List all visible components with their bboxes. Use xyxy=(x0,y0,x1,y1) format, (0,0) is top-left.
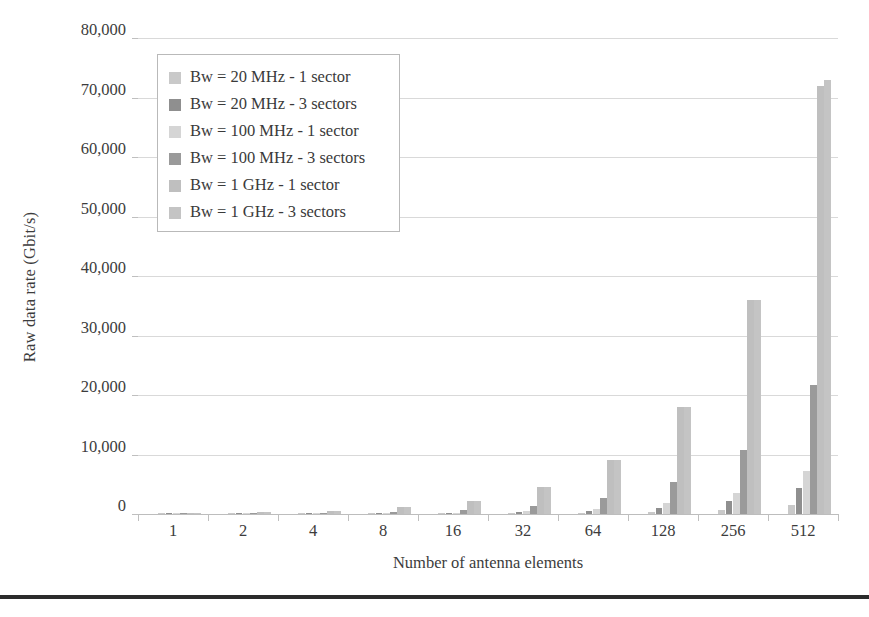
y-axis-tick-label: 80,000 xyxy=(48,20,126,40)
x-axis-tick-mark xyxy=(768,514,769,521)
bar xyxy=(313,513,320,514)
bar xyxy=(383,513,390,514)
bar xyxy=(718,510,725,514)
bar xyxy=(544,487,551,514)
bar xyxy=(578,513,585,514)
bar xyxy=(648,512,655,514)
bar-cluster xyxy=(628,38,698,514)
bar xyxy=(158,513,165,514)
bar xyxy=(243,513,250,514)
x-axis-tick-mark xyxy=(698,514,699,521)
x-axis-tick-mark xyxy=(628,514,629,521)
x-axis-tick-mark xyxy=(278,514,279,521)
bar xyxy=(740,450,747,514)
bar xyxy=(824,80,831,514)
bar xyxy=(803,471,810,514)
bar xyxy=(586,511,593,514)
bar xyxy=(467,501,474,514)
x-axis-tick-mark xyxy=(348,514,349,521)
bar xyxy=(677,407,684,514)
bar-cluster xyxy=(418,38,488,514)
legend-swatch-icon xyxy=(169,72,181,84)
y-axis-tick-label: 60,000 xyxy=(48,139,126,159)
legend-item-label: Bw = 100 MHz - 1 sector xyxy=(190,123,359,140)
bar xyxy=(747,300,754,514)
legend-item[interactable]: Bw = 1 GHz - 1 sector xyxy=(169,172,399,199)
bar xyxy=(530,506,537,514)
bar xyxy=(593,509,600,514)
x-axis-tick-mark xyxy=(488,514,489,521)
bar xyxy=(684,407,691,514)
bar xyxy=(180,513,187,514)
bar xyxy=(453,513,460,514)
legend-swatch-icon xyxy=(169,207,181,219)
x-axis-tick-label: 16 xyxy=(445,521,462,541)
bar-cluster xyxy=(488,38,558,514)
y-axis-title: Raw data rate (Gbit/s) xyxy=(20,107,40,467)
bar xyxy=(236,513,243,514)
bar xyxy=(306,513,313,514)
legend-item[interactable]: Bw = 100 MHz - 1 sector xyxy=(169,118,399,145)
y-axis-tick-label: 0 xyxy=(48,496,126,516)
y-axis-tick-label: 40,000 xyxy=(48,258,126,278)
bar xyxy=(334,511,341,514)
bar-cluster xyxy=(768,38,838,514)
bar xyxy=(446,513,453,514)
legend-swatch-icon xyxy=(169,126,181,138)
bar xyxy=(474,501,481,514)
x-axis-tick-mark xyxy=(838,514,839,521)
bar xyxy=(460,510,467,514)
legend-item[interactable]: Bw = 1 GHz - 3 sectors xyxy=(169,199,399,226)
x-axis-tick-label: 8 xyxy=(379,521,387,541)
bar xyxy=(817,86,824,514)
bar xyxy=(670,482,677,514)
bar xyxy=(796,488,803,514)
x-axis-tick-label: 64 xyxy=(585,521,602,541)
bar-cluster xyxy=(558,38,628,514)
bar xyxy=(194,513,201,514)
y-axis-tick-label: 20,000 xyxy=(48,377,126,397)
bar xyxy=(607,460,614,514)
bar xyxy=(537,487,544,514)
x-axis-tick-label: 32 xyxy=(515,521,532,541)
bar xyxy=(656,508,663,514)
legend-item-label: Bw = 1 GHz - 3 sectors xyxy=(190,204,346,221)
legend-item[interactable]: Bw = 100 MHz - 3 sectors xyxy=(169,145,399,172)
bar xyxy=(327,511,334,514)
bar xyxy=(264,512,271,514)
x-axis-tick-labels: 1248163264128256512 xyxy=(138,521,838,547)
bar xyxy=(788,505,795,514)
chart-figure: Raw data rate (Gbit/s) 010,00020,00030,0… xyxy=(0,0,869,617)
x-axis-tick-label: 4 xyxy=(309,521,317,541)
legend-swatch-icon xyxy=(169,99,181,111)
legend-item[interactable]: Bw = 20 MHz - 1 sector xyxy=(169,64,399,91)
bar xyxy=(376,513,383,514)
x-axis-tick-label: 128 xyxy=(651,521,676,541)
y-axis-tick-label: 30,000 xyxy=(48,318,126,338)
y-axis-tick-label: 70,000 xyxy=(48,80,126,100)
bar xyxy=(257,512,264,514)
bar xyxy=(320,513,327,514)
bar xyxy=(614,460,621,514)
x-axis-tick-mark xyxy=(418,514,419,521)
y-axis-tick-labels: 010,00020,00030,00040,00050,00060,00070,… xyxy=(56,30,134,514)
bar xyxy=(187,513,194,514)
y-axis-tick-label: 10,000 xyxy=(48,437,126,457)
bar-cluster xyxy=(698,38,768,514)
bar xyxy=(438,513,445,514)
bar xyxy=(298,513,305,514)
legend-item[interactable]: Bw = 20 MHz - 3 sectors xyxy=(169,91,399,118)
legend-item-label: Bw = 1 GHz - 1 sector xyxy=(190,177,340,194)
y-axis-tick-label: 50,000 xyxy=(48,199,126,219)
x-axis-tick-mark xyxy=(138,514,139,521)
bottom-divider-rule xyxy=(0,595,869,599)
bar xyxy=(810,385,817,514)
legend-item-label: Bw = 20 MHz - 1 sector xyxy=(190,69,351,86)
bar xyxy=(600,498,607,514)
bar xyxy=(663,503,670,514)
bar xyxy=(404,507,411,514)
bar xyxy=(173,513,180,514)
bar xyxy=(390,512,397,514)
x-axis-tick-label: 512 xyxy=(791,521,816,541)
legend-item-label: Bw = 100 MHz - 3 sectors xyxy=(190,150,365,167)
